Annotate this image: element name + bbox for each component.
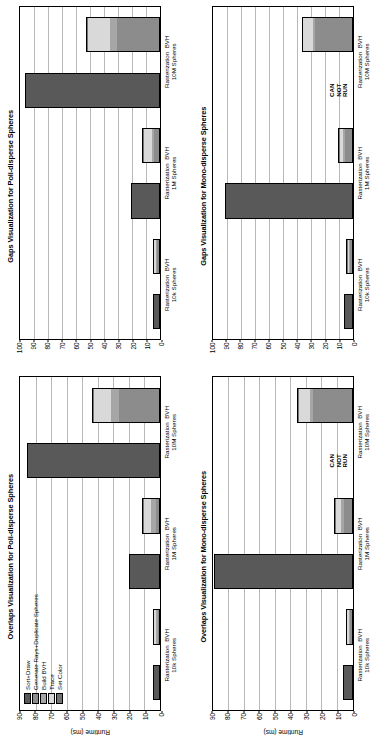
stacked-bar[interactable] [153,294,160,329]
bar-segment[interactable] [111,389,119,422]
stacked-bar[interactable] [302,17,353,52]
bar-segment[interactable] [350,610,352,643]
bar-segment[interactable] [350,240,352,273]
x-axis-category-pair: Rasterization BVH [163,518,170,570]
bar-slot [213,7,353,62]
bar-segment[interactable] [154,129,159,162]
bar-segment[interactable] [94,389,111,422]
bar-segment[interactable] [344,499,352,532]
legend-label: Sort+Draw [24,661,31,690]
legend-swatch-trace [48,693,55,704]
bar-segment[interactable] [88,18,110,51]
stacked-bar[interactable] [153,665,160,700]
bar-segment[interactable] [303,18,313,51]
bar-segment[interactable] [345,295,352,328]
bar-segment[interactable] [28,444,159,477]
plot-box: Sort+Draw Generate Rays+Duplicate Sphere… [19,377,161,712]
stacked-bar[interactable] [225,183,353,218]
x-axis-labels: Rasterization BVH10k SpheresRasterizatio… [161,6,177,341]
x-axis-category-pair: Rasterization BVH [163,406,170,458]
bar-segment[interactable] [132,184,159,217]
plot-area: Runtime (ms) 0102030405060708090 CANNOTR… [212,377,354,738]
x-axis-category-pair: Rasterization BVH [356,518,363,570]
stacked-bar[interactable] [334,498,352,533]
y-axis-label: Runtime (ms) [19,727,161,737]
stacked-bar[interactable] [343,665,353,700]
y-tick-label: 0 [158,343,165,347]
x-axis-category-pair: Rasterization BVH [163,259,170,311]
x-axis-group-label: 10k Spheres [170,600,177,712]
bar-segment[interactable] [156,499,159,532]
bar-segment[interactable] [119,389,159,422]
y-tick-label: 90 [16,713,23,720]
stacked-bar[interactable] [92,388,160,423]
y-tick-label: 50 [87,343,94,350]
x-axis-group: Rasterization BVH10M Spheres [354,377,370,489]
bar-segment[interactable] [313,389,352,422]
bar-segment[interactable] [144,129,152,162]
legend: Sort+Draw Generate Rays+Duplicate Sphere… [24,594,63,704]
bar-segment[interactable] [110,18,117,51]
bar-segment[interactable] [315,18,351,51]
stacked-bar[interactable] [142,128,160,163]
stacked-bar[interactable] [86,17,160,52]
bar-slot [20,173,160,228]
legend-swatch-set-color [56,693,63,704]
y-tick-label: 20 [129,343,136,350]
y-axis-label [19,357,161,367]
stacked-bar[interactable] [153,239,160,274]
bar-segment[interactable] [130,555,159,588]
y-tick-label: 80 [31,713,38,720]
stacked-bar[interactable] [346,609,353,644]
bar-slot [20,7,160,62]
bar-segment[interactable] [154,295,159,328]
x-axis-category-pair: Rasterization BVH [356,406,363,458]
legend-item: Build BVH [40,594,47,704]
bar-segment[interactable] [26,74,159,107]
stacked-bar[interactable] [129,554,160,589]
x-axis-group: Rasterization BVH10M Spheres [354,6,370,118]
y-tick-label: 100 [208,343,215,354]
stacked-bar[interactable] [131,183,160,218]
y-tick-label: 60 [72,343,79,350]
stacked-bar[interactable] [338,128,352,163]
stacked-bar[interactable] [214,554,353,589]
x-axis-category-pair: Rasterization BVH [356,259,363,311]
bar-segment[interactable] [154,666,159,699]
y-tick-label: 70 [251,343,258,350]
stacked-bar[interactable] [25,73,160,108]
bar-segment[interactable] [158,610,159,643]
x-axis-labels: Rasterization BVH10k SpheresRasterizatio… [354,377,370,712]
panel-gaps-mono: Gaps Visualization for Mono-disperse Sph… [193,0,385,371]
y-tick-label: 80 [44,343,51,350]
x-axis-group: Rasterization BVH1M Spheres [161,488,177,600]
plot-box: CANNOTRUN [212,377,354,712]
bar-slot [20,229,160,284]
stacked-bar[interactable] [153,609,160,644]
y-tick-label: 60 [255,713,262,720]
bar-segment[interactable] [226,184,352,217]
y-tick-label: 80 [236,343,243,350]
y-tick-label: 90 [30,343,37,350]
x-axis-group-label: 10k Spheres [363,600,370,712]
y-tick-label: 20 [318,713,325,720]
x-axis-group-label: 10M Spheres [363,6,370,118]
bar-segment[interactable] [144,499,151,532]
stacked-bar[interactable] [27,443,160,478]
bar-segment[interactable] [117,18,159,51]
bar-segment[interactable] [344,666,352,699]
stacked-bar[interactable] [346,239,352,274]
x-axis-category-pair: Rasterization BVH [163,629,170,681]
stacked-bar[interactable] [344,294,353,329]
bar-segment[interactable] [299,389,310,422]
x-axis-group-label: 1M Spheres [363,488,370,600]
bar-segment[interactable] [215,555,352,588]
bar-slot [213,173,353,228]
stacked-bar[interactable] [297,388,353,423]
y-tick-label: 70 [58,343,65,350]
x-axis-group: Rasterization BVH1M Spheres [161,118,177,230]
stacked-bar[interactable] [142,498,160,533]
y-tick-label: 80 [224,713,231,720]
bar-segment[interactable] [157,240,159,273]
bar-segment[interactable] [345,129,352,162]
